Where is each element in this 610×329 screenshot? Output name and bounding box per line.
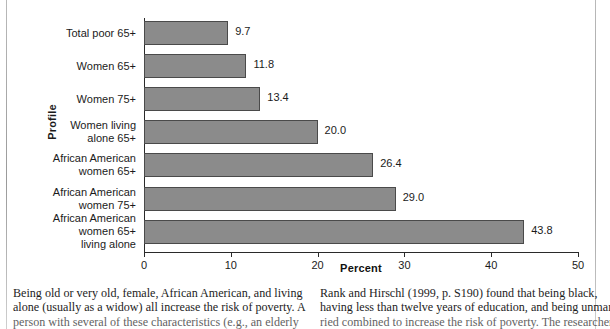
bar-row: 43.8 [144,220,578,244]
bar-row: 29.0 [144,187,578,211]
bar-value-label: 20.0 [325,124,346,136]
body-text-line: alone (usually as a widow) all increase … [13,300,289,314]
bar-value-label: 43.8 [531,224,552,236]
category-label: African American women 65+ [0,152,136,178]
body-text-column-left: Being old or very old, female, African A… [13,286,289,329]
category-label: Women living alone 65+ [0,119,136,145]
body-text-line: person with several of these characteris… [13,315,289,329]
bar [144,153,373,177]
x-axis-tick [578,252,579,257]
bar-row: 9.7 [144,21,578,45]
body-text-line: ried combined to increase the risk of po… [320,315,588,329]
x-axis-tick [491,252,492,257]
x-axis-tick [318,252,319,257]
bar-chart-figure: Profile 9.711.813.420.026.429.043.8 0102… [0,0,610,283]
x-axis-title: Percent [144,262,578,274]
x-axis-tick [144,252,145,257]
body-text-line: having less than twelve years of educati… [320,300,588,314]
category-label: Total poor 65+ [0,27,136,40]
body-text-column-right: Rank and Hirschl (1999, p. S190) found t… [320,286,588,329]
bar [144,120,318,144]
category-label: African American women 75+ [0,186,136,212]
body-text-block: Being old or very old, female, African A… [0,286,610,329]
category-label: Women 65+ [0,60,136,73]
bar-value-label: 11.8 [253,58,274,70]
body-text-line: Rank and Hirschl (1999, p. S190) found t… [320,286,588,300]
body-text-line: Being old or very old, female, African A… [13,286,289,300]
bar [144,220,524,244]
bar-value-label: 13.4 [267,91,288,103]
x-axis-tick [404,252,405,257]
bar-value-label: 9.7 [235,25,250,37]
x-axis-tick [231,252,232,257]
bar [144,87,260,111]
bar [144,54,246,78]
bar-value-label: 29.0 [403,191,424,203]
category-label: African American women 65+ living alone [0,212,136,251]
bar-row: 26.4 [144,153,578,177]
bar [144,21,228,45]
bar-row: 20.0 [144,120,578,144]
bar-row: 11.8 [144,54,578,78]
bar-value-label: 26.4 [380,157,401,169]
bar-row: 13.4 [144,87,578,111]
bar [144,187,396,211]
x-axis-line [144,252,578,253]
category-label: Women 75+ [0,93,136,106]
plot-area: 9.711.813.420.026.429.043.8 01020304050 [144,18,578,252]
